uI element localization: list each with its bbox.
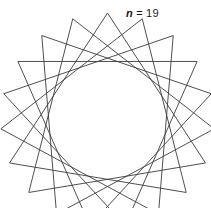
star-polygon-figure: n = 19 — [0, 0, 211, 208]
star-polygon-drawing — [0, 0, 211, 208]
label-variable-n: n — [126, 7, 133, 19]
star-polygon-chord-path — [1, 13, 211, 208]
figure-label: n = 19 — [126, 7, 159, 20]
label-value: 19 — [146, 7, 159, 19]
star-polygon-path-group — [1, 13, 211, 208]
label-equals-sign: = — [133, 7, 146, 19]
